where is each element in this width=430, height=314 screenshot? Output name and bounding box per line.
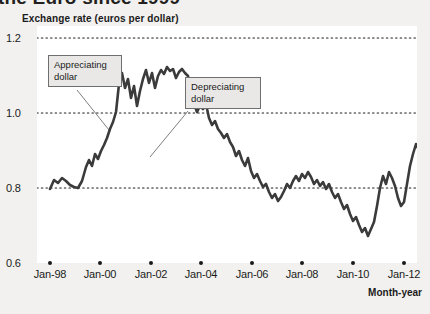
x-axis-tick-jan-06 — [250, 261, 254, 265]
annotation-depreciating-dollar: Depreciating dollar — [185, 77, 261, 109]
chart-title: Exchange rate (euros per dollar) — [22, 13, 179, 24]
x-axis-tick-jan-04 — [199, 261, 203, 265]
y-axis-label-0-6: 0.6 — [6, 257, 34, 269]
x-axis-tick-jan-98 — [48, 261, 52, 265]
x-axis-tick-jan-08 — [300, 261, 304, 265]
clipped-page-heading: the Euro since 1999 — [0, 0, 430, 11]
y-axis-label-0-8: 0.8 — [6, 182, 34, 194]
y-axis-label-1-2: 1.2 — [6, 32, 34, 44]
x-axis-label-jan-02: Jan-02 — [135, 268, 167, 280]
x-axis-label-jan-04: Jan-04 — [185, 268, 217, 280]
x-axis-label-jan-06: Jan-06 — [236, 268, 268, 280]
x-axis-title: Month-year — [368, 287, 422, 298]
x-axis-tick-jan-12 — [402, 261, 406, 265]
x-axis-label-jan-10: Jan-10 — [337, 268, 369, 280]
x-axis-tick-jan-10 — [351, 261, 355, 265]
clipped-page-heading-text: the Euro since 1999 — [0, 0, 180, 9]
x-axis-label-jan-12: Jan-12 — [388, 268, 420, 280]
x-axis-label-jan-08: Jan-08 — [286, 268, 318, 280]
x-axis-label-jan-98: Jan-98 — [34, 268, 66, 280]
x-axis-label-jan-00: Jan-00 — [84, 268, 116, 280]
x-axis-tick-jan-00 — [98, 261, 102, 265]
callout-leader-lines — [77, 90, 188, 157]
y-axis-label-1-0: 1.0 — [6, 107, 34, 119]
x-axis-tick-jan-02 — [149, 261, 153, 265]
leader-line-depreciating — [150, 111, 188, 157]
leader-line-appreciating — [77, 90, 109, 130]
annotation-appreciating-dollar: Appreciating dollar — [48, 55, 122, 87]
